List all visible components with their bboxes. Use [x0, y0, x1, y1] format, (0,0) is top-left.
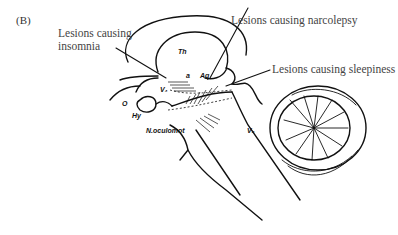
callout-narcolepsy: Lesions causing narcolepsy	[231, 14, 357, 27]
label-oculomotor-nucleus: N.oculomot	[146, 127, 185, 134]
callout-insomnia: Lesions causing insomnia	[58, 27, 132, 53]
label-a: a	[186, 72, 190, 79]
label-optic: O	[122, 100, 127, 107]
label-fourth-ventricle: V₄	[247, 127, 254, 134]
callout-insomnia-line1: Lesions causing	[58, 27, 132, 40]
label-third-ventricle: V₃	[160, 86, 167, 93]
label-aqueduct: Aq	[200, 72, 209, 79]
panel-label: (B)	[16, 14, 31, 26]
callout-sleepiness: Lesions causing sleepiness	[272, 63, 395, 76]
label-hypothalamus: Hy	[132, 112, 141, 119]
label-thalamus: Th	[178, 48, 187, 55]
callout-insomnia-line2: insomnia	[58, 40, 132, 53]
